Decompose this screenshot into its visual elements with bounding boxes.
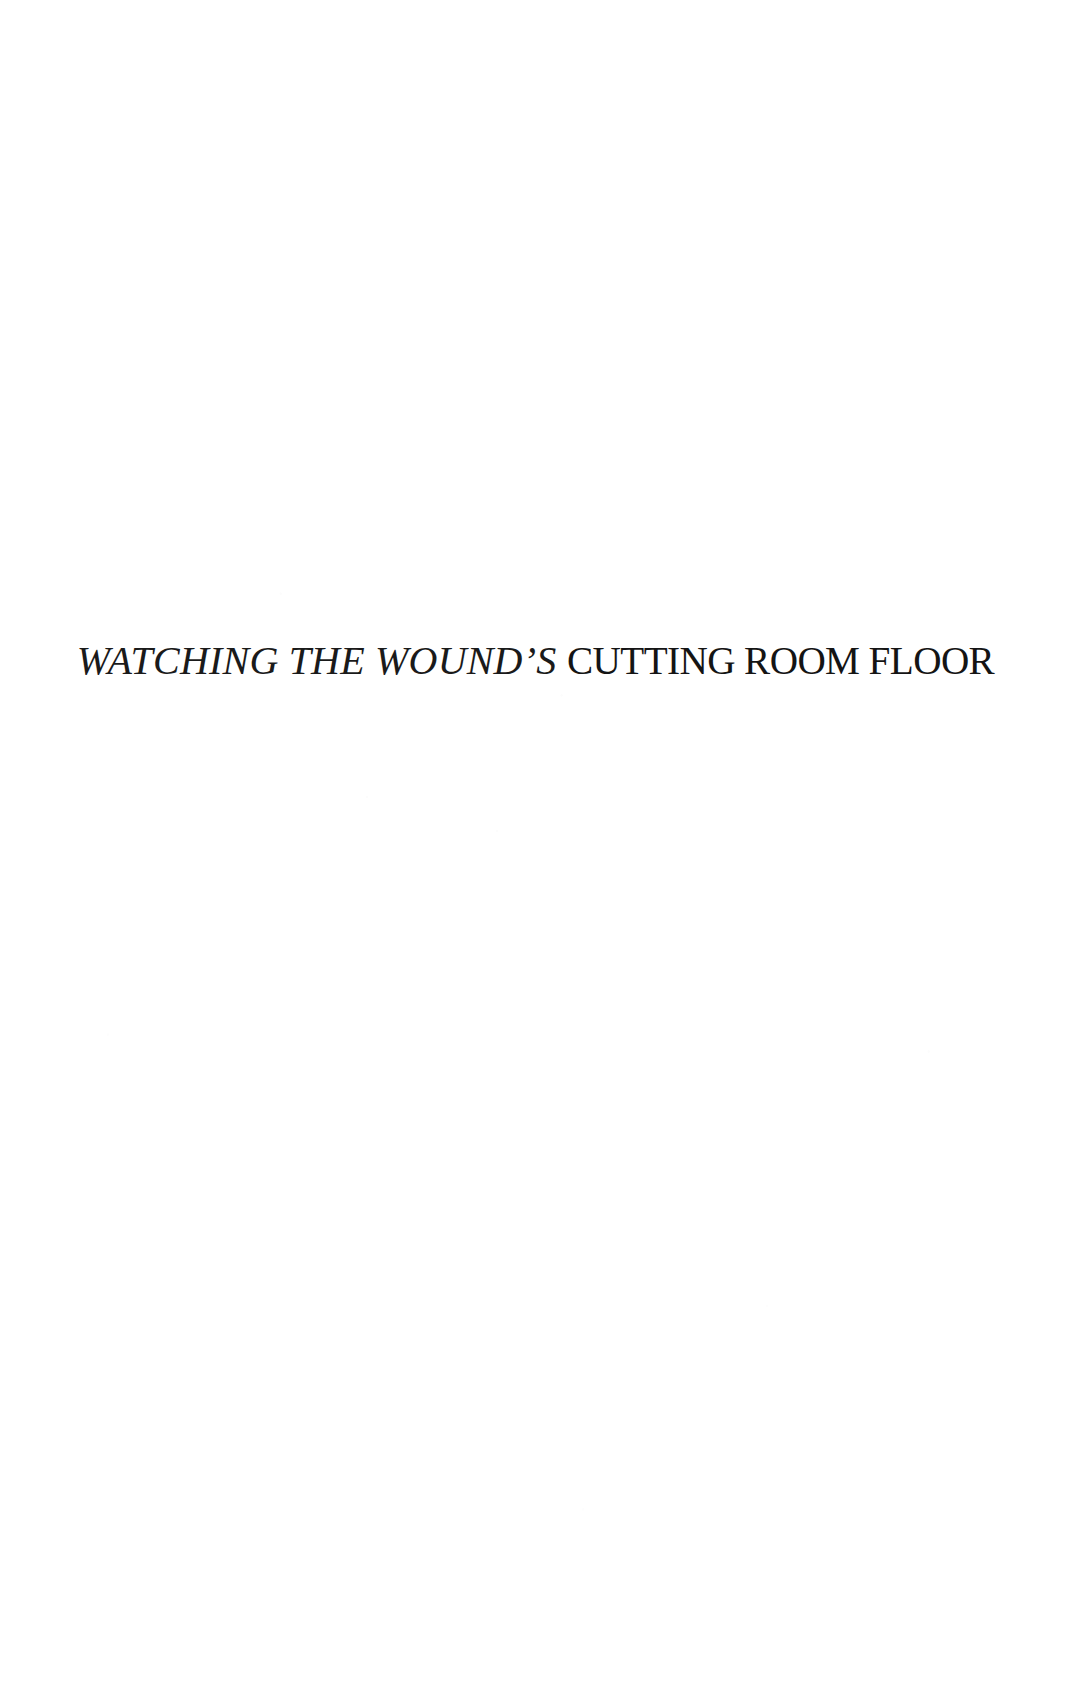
chapter-title-italic-segment: WATCHING THE WOUND’S: [77, 638, 557, 683]
book-page: WATCHING THE WOUND’SCUTTING ROOM FLOOR: [0, 0, 1080, 1696]
chapter-title-roman-segment: CUTTING ROOM FLOOR: [567, 640, 994, 682]
paper-texture: [0, 0, 1080, 1696]
chapter-title-line: WATCHING THE WOUND’SCUTTING ROOM FLOOR: [77, 640, 1004, 682]
chapter-title: WATCHING THE WOUND’SCUTTING ROOM FLOOR: [0, 640, 1080, 682]
